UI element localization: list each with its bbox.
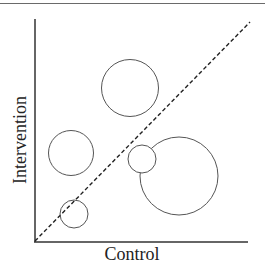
x-axis-label: Control <box>100 244 164 264</box>
bubble-5 <box>60 200 88 228</box>
y-axis-label: Intervention <box>10 96 30 184</box>
bubble-3 <box>128 145 156 173</box>
bubble-1 <box>102 60 159 117</box>
equality-line-dashed <box>35 22 250 241</box>
bubble-diagram <box>0 0 265 275</box>
bubble-2 <box>49 131 94 176</box>
